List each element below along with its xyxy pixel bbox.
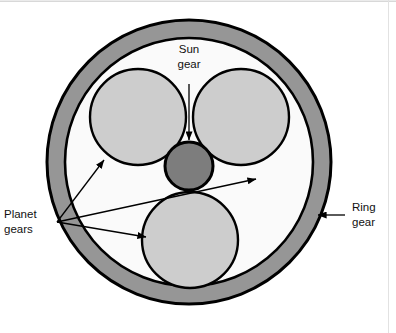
sun-gear-label-line1: Sun: [179, 43, 199, 55]
planet-gear-bottom: [142, 192, 238, 288]
diagram-canvas: Sun gear Planet gears Ring gear: [0, 0, 396, 333]
ring-gear-label-line2: gear: [352, 216, 375, 228]
ring-gear-label: Ring gear: [352, 201, 376, 228]
sun-gear-circle: [165, 142, 213, 190]
planet-gears-label-line1: Planet: [4, 208, 37, 220]
planet-gears-label-line2: gears: [4, 223, 33, 235]
planetary-gear-diagram: Sun gear Planet gears Ring gear: [0, 0, 396, 333]
planet-gears-label: Planet gears: [4, 208, 37, 235]
ring-gear-label-line1: Ring: [352, 201, 376, 213]
sun-gear-label-line2: gear: [177, 58, 200, 70]
